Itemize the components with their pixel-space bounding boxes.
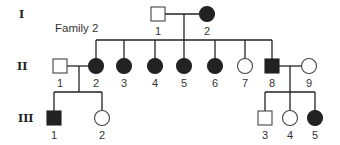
generation-label-I: I: [19, 8, 24, 21]
individual-number-II-4: 4: [152, 77, 158, 89]
pedigree-chart: I II III Family 2 1212345678912345: [0, 0, 340, 145]
individual-number-II-3: 3: [121, 77, 127, 89]
individual-number-III-2: 2: [99, 129, 105, 141]
individual-III-1-square-icon: [47, 111, 61, 125]
individual-I-1-square-icon: [151, 7, 165, 21]
individual-II-8-square-icon: [265, 59, 279, 73]
generation-label-II: II: [17, 60, 27, 73]
individual-number-II-8: 8: [269, 77, 275, 89]
individual-number-III-3: 3: [262, 129, 268, 141]
individual-III-2-circle-icon: [95, 111, 110, 126]
individual-number-I-1: 1: [155, 25, 161, 37]
individual-number-III-1: 1: [51, 129, 57, 141]
individual-number-II-2: 2: [93, 77, 99, 89]
individual-number-II-1: 1: [57, 77, 63, 89]
generation-label-III: III: [18, 112, 33, 125]
individual-II-4-circle-icon: [148, 59, 163, 74]
individual-II-6-circle-icon: [208, 59, 223, 74]
individual-III-3-square-icon: [258, 111, 272, 125]
individual-III-5-circle-icon: [308, 111, 323, 126]
family-title: Family 2: [55, 22, 98, 34]
individual-number-I-2: 2: [204, 25, 210, 37]
individual-III-4-circle-icon: [283, 111, 298, 126]
individual-number-III-5: 5: [312, 129, 318, 141]
individual-I-2-circle-icon: [200, 7, 215, 22]
lines-gen-I: [96, 14, 272, 59]
individual-number-II-6: 6: [212, 77, 218, 89]
individual-II-9-circle-icon: [302, 59, 317, 74]
individual-II-2-circle-icon: [89, 59, 104, 74]
individual-number-II-5: 5: [181, 77, 187, 89]
individual-number-III-4: 4: [287, 129, 293, 141]
individual-number-II-7: 7: [242, 77, 248, 89]
individual-II-7-circle-icon: [238, 59, 253, 74]
individual-number-II-9: 9: [306, 77, 312, 89]
individual-II-1-square-icon: [53, 59, 67, 73]
individual-II-5-circle-icon: [177, 59, 192, 74]
individual-II-3-circle-icon: [117, 59, 132, 74]
